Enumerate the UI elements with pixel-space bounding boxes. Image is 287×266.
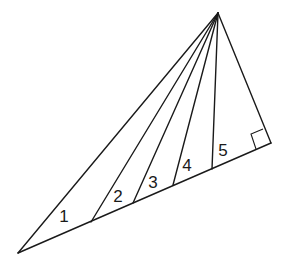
side-apex-right [218, 13, 271, 143]
angle-label-2: 2 [113, 187, 122, 206]
cevian-4 [212, 13, 218, 169]
angle-label-4: 4 [182, 156, 191, 175]
side-apex-left [18, 13, 218, 253]
angle-label-1: 1 [59, 207, 68, 226]
triangle-diagram: 1 2 3 4 5 [0, 0, 287, 266]
angle-label-5: 5 [218, 141, 227, 160]
right-angle-marker-icon [251, 129, 263, 149]
angle-label-3: 3 [148, 173, 157, 192]
side-base [18, 143, 271, 253]
